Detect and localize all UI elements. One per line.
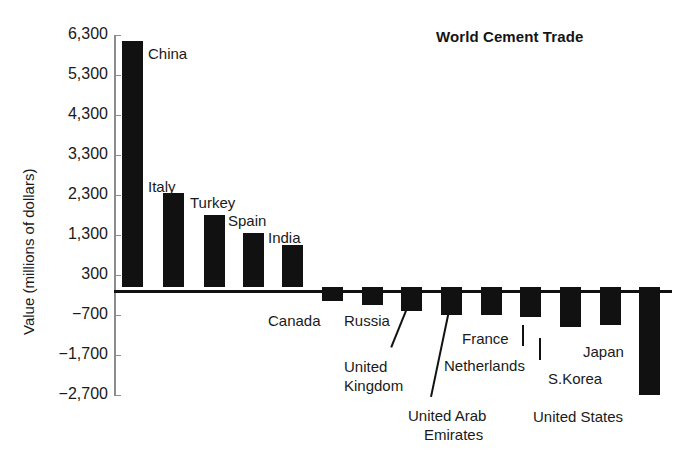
bar — [441, 287, 462, 315]
bar-label-russia: Russia — [344, 312, 390, 329]
bar — [204, 215, 225, 287]
y-tick-label: 1,300 — [28, 225, 108, 243]
bar-label-canada: Canada — [268, 312, 321, 329]
united-kingdom-leader — [390, 305, 409, 348]
y-axis-line — [114, 35, 116, 396]
y-tick-label: 4,300 — [28, 105, 108, 123]
chart-title: World Cement Trade — [436, 28, 583, 45]
bar — [122, 41, 143, 287]
bar-label-spain: Spain — [228, 212, 266, 229]
y-tick-label: 300 — [28, 265, 108, 283]
bar-label-turkey: Turkey — [190, 194, 235, 211]
bar-label-s-korea: S.Korea — [548, 370, 602, 387]
bar — [282, 245, 303, 287]
bar-label-china: China — [148, 45, 187, 62]
bar-label-united-kingdom-line1: United — [344, 358, 387, 375]
bar — [520, 287, 541, 317]
bar — [243, 233, 264, 287]
y-tick-label: −1,700 — [28, 345, 108, 363]
bar-label-japan: Japan — [583, 343, 624, 360]
y-tick-label: 6,300 — [28, 25, 108, 43]
united-arab-emirates-leader — [430, 306, 451, 397]
bar-label-netherlands: Netherlands — [444, 357, 525, 374]
bar — [481, 287, 502, 315]
bar — [322, 287, 343, 301]
bar-label-united-states: United States — [533, 408, 623, 425]
bar — [401, 287, 422, 311]
bar — [163, 193, 184, 287]
bar-chart: World Cement Trade Value (millions of do… — [0, 0, 686, 469]
y-tick-label: −700 — [28, 305, 108, 323]
bar-label-united-arab-emirates-line2: Emirates — [424, 426, 483, 443]
bar — [362, 287, 383, 305]
bar — [560, 287, 581, 327]
y-tick-label: −2,700 — [28, 385, 108, 403]
y-tick-label: 2,300 — [28, 185, 108, 203]
bar-label-india: India — [268, 229, 301, 246]
bar — [600, 287, 621, 325]
y-tick-label: 5,300 — [28, 65, 108, 83]
y-tick-label: 3,300 — [28, 145, 108, 163]
bar — [639, 287, 660, 395]
zero-baseline — [114, 290, 672, 293]
bar-label-italy: Italy — [148, 178, 176, 195]
bar-label-france: France — [462, 330, 509, 347]
bar-label-united-arab-emirates-line1: United Arab — [408, 407, 486, 424]
bar-label-united-kingdom-line2: Kingdom — [344, 377, 403, 394]
s-korea-leader — [539, 338, 541, 360]
netherlands-leader — [522, 325, 524, 346]
